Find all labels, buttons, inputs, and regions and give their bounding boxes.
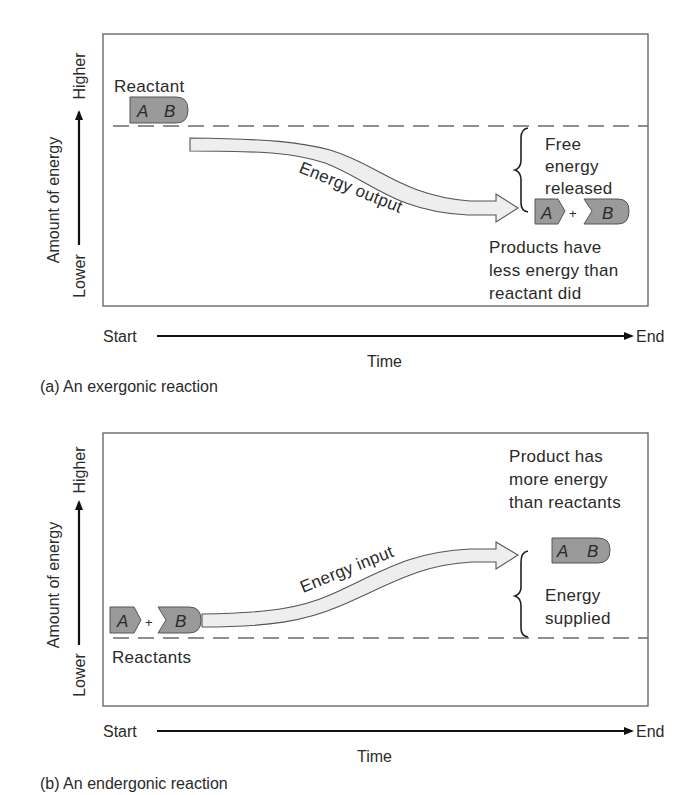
product-a: A	[540, 204, 552, 223]
y-axis-high-label: Higher	[71, 52, 88, 100]
x-axis-end-label: End	[636, 723, 664, 740]
reactant-label: Reactant	[114, 77, 184, 96]
x-axis-start-label: Start	[103, 328, 137, 345]
panel-b-endergonic: Amount of energy Higher Lower A + B Reac…	[40, 433, 664, 792]
plus-sign: +	[145, 615, 153, 630]
panel-a-exergonic: Amount of energy Higher Lower Reactant A…	[40, 34, 664, 395]
x-axis-end-label: End	[636, 328, 664, 345]
product-molecule-a: A	[556, 542, 568, 561]
product-note-line-1: Product has	[509, 447, 603, 466]
x-axis-label: Time	[367, 353, 402, 370]
brace-label-line-2: energy	[545, 157, 599, 176]
reactant-b: B	[175, 612, 186, 631]
product-note-line-2: more energy	[509, 470, 608, 489]
plus-sign: +	[569, 206, 577, 221]
brace-label-line-3: released	[545, 179, 613, 198]
energy-supplied-brace-icon	[515, 551, 528, 637]
brace-label-line-1: Energy	[545, 586, 601, 605]
reactants-label: Reactants	[112, 648, 191, 667]
y-axis-label: Amount of energy	[45, 522, 62, 648]
products-note-line-3: reactant did	[489, 284, 581, 303]
product-b: B	[602, 204, 613, 223]
reactant-molecule-a: A	[136, 102, 148, 121]
products-note-line-2: less energy than	[489, 261, 619, 280]
product-molecule-b: B	[587, 542, 598, 561]
brace-label-line-2: supplied	[545, 609, 611, 628]
panel-a-caption: (a) An exergonic reaction	[40, 378, 218, 395]
brace-label-line-1: Free	[545, 135, 581, 154]
y-axis-low-label: Lower	[71, 254, 88, 298]
x-axis-label: Time	[357, 748, 392, 765]
reactant-a: A	[116, 612, 128, 631]
y-axis-low-label: Lower	[71, 653, 88, 697]
y-axis-high-label: Higher	[71, 446, 88, 494]
panel-b-caption: (b) An endergonic reaction	[40, 775, 228, 792]
products-note-line-1: Products have	[489, 238, 602, 257]
energy-diagram: Amount of energy Higher Lower Reactant A…	[0, 0, 698, 795]
y-axis-label: Amount of energy	[45, 137, 62, 263]
reactant-molecule-b: B	[164, 102, 175, 121]
free-energy-brace-icon	[515, 128, 528, 212]
x-axis-start-label: Start	[103, 723, 137, 740]
product-note-line-3: than reactants	[509, 493, 621, 512]
